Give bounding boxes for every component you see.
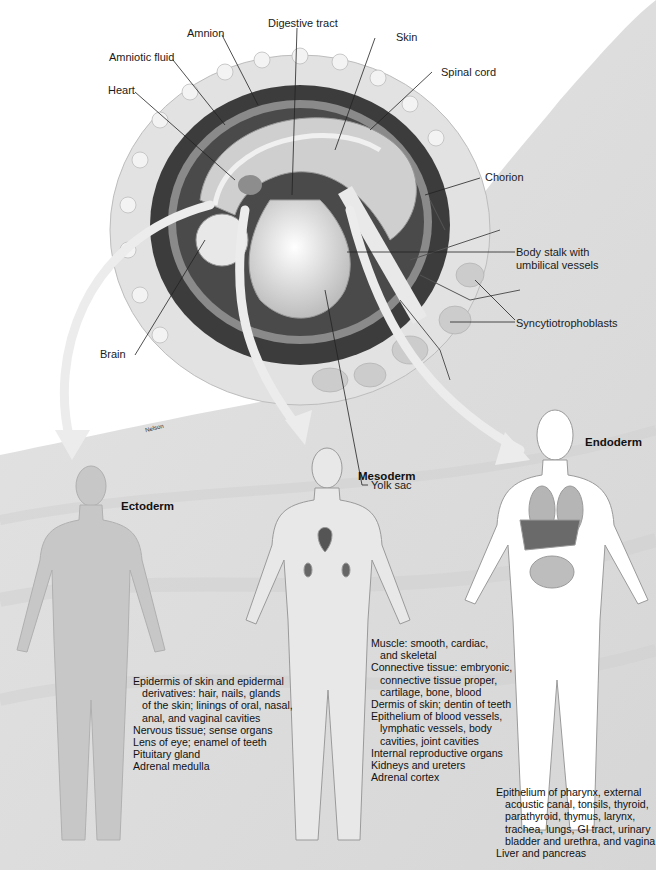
endo-item: trachea, lungs, GI tract, urinary <box>496 823 655 835</box>
label-amniotic-fluid: Amniotic fluid <box>109 51 174 64</box>
meso-item: Muscle: smooth, cardiac, <box>371 637 512 649</box>
label-body-stalk: Body stalk with umbilical vessels <box>516 246 599 272</box>
label-body-stalk-line1: Body stalk with <box>516 246 599 259</box>
label-heart: Heart <box>108 84 135 97</box>
ecto-item: Lens of eye; enamel of teeth <box>133 736 293 748</box>
ecto-item: derivatives: hair, nails, glands <box>133 687 293 699</box>
ecto-item: anal, and vaginal cavities <box>133 712 293 724</box>
title-ectoderm: Ectoderm <box>121 500 174 512</box>
ecto-item: Nervous tissue; sense organs <box>133 724 293 736</box>
label-body-stalk-line2: umbilical vessels <box>516 259 599 272</box>
mesoderm-derivatives: Muscle: smooth, cardiac, and skeletal Co… <box>371 637 512 783</box>
ectoderm-derivatives: Epidermis of skin and epidermal derivati… <box>133 675 293 773</box>
meso-item: lymphatic vessels, body <box>371 722 512 734</box>
meso-item: Kidneys and ureters <box>371 759 512 771</box>
label-syncytiotrophoblasts: Syncytiotrophoblasts <box>516 317 618 330</box>
meso-item: connective tissue proper, <box>371 674 512 686</box>
meso-item: Adrenal cortex <box>371 771 512 783</box>
label-digestive-tract: Digestive tract <box>268 17 338 30</box>
meso-item: Internal reproductive organs <box>371 747 512 759</box>
ecto-item: Pituitary gland <box>133 748 293 760</box>
title-endoderm: Endoderm <box>585 436 642 448</box>
germ-layer-diagram: Amnion Digestive tract Amniotic fluid Sk… <box>0 0 656 870</box>
endo-item: acoustic canal, tonsils, thyroid, <box>496 798 655 810</box>
endo-item: parathyroid, thymus, larynx, <box>496 810 655 822</box>
meso-item: and skeletal <box>371 649 512 661</box>
ecto-item: Adrenal medulla <box>133 760 293 772</box>
ecto-item: of the skin; linings of oral, nasal, <box>133 699 293 711</box>
meso-item: cartilage, bone, blood <box>371 686 512 698</box>
endo-item: bladder and urethra, and vagina <box>496 835 655 847</box>
label-chorion: Chorion <box>485 171 524 184</box>
meso-item: cavities, joint cavities <box>371 735 512 747</box>
label-spinal-cord: Spinal cord <box>441 66 496 79</box>
meso-item: Dermis of skin; dentin of teeth <box>371 698 512 710</box>
title-mesoderm: Mesoderm <box>358 470 416 482</box>
label-skin: Skin <box>396 31 417 44</box>
endo-item: Liver and pancreas <box>496 847 655 859</box>
meso-item: Epithelium of blood vessels, <box>371 710 512 722</box>
label-amnion: Amnion <box>187 27 224 40</box>
illustration <box>0 0 656 870</box>
label-brain: Brain <box>100 348 126 361</box>
endoderm-derivatives: Epithelium of pharynx, external acoustic… <box>496 786 655 859</box>
meso-item: Connective tissue: embryonic, <box>371 661 512 673</box>
ecto-item: Epidermis of skin and epidermal <box>133 675 293 687</box>
endo-item: Epithelium of pharynx, external <box>496 786 655 798</box>
